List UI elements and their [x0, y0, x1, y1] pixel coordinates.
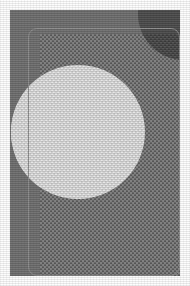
image-canvas	[0, 0, 190, 286]
background-panel	[10, 10, 180, 276]
dark-corner-circle-dithered-overlap	[138, 34, 180, 60]
light-circle	[11, 65, 145, 199]
